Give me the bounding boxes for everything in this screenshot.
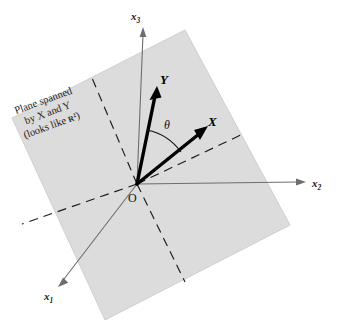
vector-label-X: X xyxy=(207,114,217,129)
vector-label-Y: Y xyxy=(160,72,169,87)
origin-label: O xyxy=(128,191,137,205)
theta-label: θ xyxy=(164,118,170,132)
vector-plane-diagram: x3 x2 x1 Y X θ O Plane spanned by X and … xyxy=(0,0,341,329)
axis-label-x2-subscript: 2 xyxy=(317,183,322,192)
axis-label-x3-subscript: 3 xyxy=(136,16,141,25)
axis-label-x1-subscript: 1 xyxy=(50,296,54,305)
